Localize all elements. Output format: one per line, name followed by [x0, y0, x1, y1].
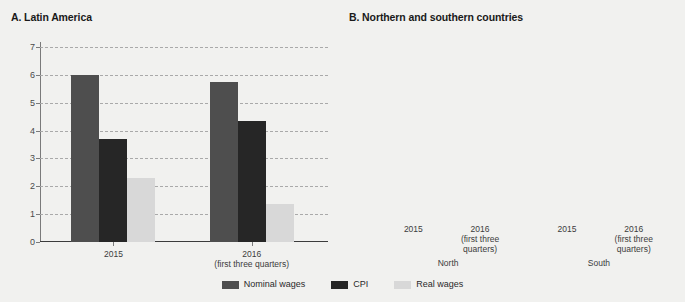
panel-a-y-tick-mark — [36, 103, 40, 104]
panel-a-y-tick-mark — [36, 131, 40, 132]
panel-a-title: A. Latin America — [11, 11, 92, 23]
panel-a-y-tick-mark — [36, 158, 40, 159]
panel-b-title: B. Northern and southern countries — [349, 11, 523, 23]
panel-a-y-tick-label: 4 — [30, 126, 35, 135]
panel-b-x-label: 2016 (first three quarters) — [589, 224, 679, 254]
panel-a-gridline — [40, 47, 328, 48]
panel-a-y-tick-mark — [36, 75, 40, 76]
panel-a-bar-real — [266, 204, 294, 242]
panel-a-x-label: 2016 (first three quarters) — [182, 249, 322, 269]
panel-a-x-tick — [113, 242, 114, 246]
legend-swatch-nominal-icon — [222, 281, 239, 289]
panel-b-region-label: North — [403, 258, 493, 268]
panel-b-x-label: 2016 (first three quarters) — [435, 224, 525, 254]
panel-a-y-axis — [40, 42, 41, 242]
panel-a-bar-nominal — [210, 82, 238, 242]
panel-a-y-tick-label: 6 — [30, 70, 35, 79]
panel-a-y-tick-mark — [36, 47, 40, 48]
chart-legend: Nominal wagesCPIReal wages — [0, 280, 685, 289]
legend-swatch-real-icon — [394, 281, 411, 289]
panel-a-plot-area: 01234567 — [40, 47, 328, 242]
panel-a-bar-nominal — [71, 75, 99, 242]
legend-label-real: Real wages — [416, 280, 463, 289]
panel-a-bar-real — [127, 178, 155, 242]
legend-label-nominal: Nominal wages — [244, 280, 306, 289]
panel-a-x-label: 2015 — [43, 249, 183, 259]
panel-a-y-tick-label: 0 — [30, 238, 35, 247]
panel-b-north-south: B. Northern and southern countries -1012… — [345, 0, 685, 275]
panel-a-latin-america: A. Latin America 01234567 20152016 (firs… — [0, 0, 345, 275]
figure-wage-cpi-comparison: A. Latin America 01234567 20152016 (firs… — [0, 0, 685, 302]
panel-a-y-tick-label: 5 — [30, 98, 35, 107]
panel-b-region-label: South — [554, 258, 644, 268]
legend-item-cpi: CPI — [331, 280, 368, 289]
panel-a-y-tick-label: 1 — [30, 210, 35, 219]
legend-swatch-cpi-icon — [331, 281, 348, 289]
legend-label-cpi: CPI — [353, 280, 368, 289]
legend-item-nominal: Nominal wages — [222, 280, 306, 289]
panel-a-y-tick-label: 3 — [30, 154, 35, 163]
panel-a-bar-cpi — [238, 121, 266, 242]
panel-a-bar-cpi — [99, 139, 127, 242]
panel-a-y-tick-mark — [36, 214, 40, 215]
panel-a-y-tick-mark — [36, 186, 40, 187]
legend-item-real: Real wages — [394, 280, 463, 289]
panel-a-y-tick-label: 7 — [30, 43, 35, 52]
panel-a-x-tick — [252, 242, 253, 246]
panel-a-y-tick-label: 2 — [30, 182, 35, 191]
panel-a-y-tick-mark — [36, 242, 40, 243]
